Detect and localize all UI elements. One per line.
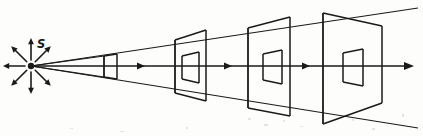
aperture-3-inner-top-edge <box>263 50 282 54</box>
axis-arrowhead-3 <box>302 62 310 69</box>
source-label: S <box>37 37 45 51</box>
source-fan-line-1 <box>31 56 104 66</box>
aperture-4 <box>323 13 382 124</box>
aperture-2-top-edge <box>175 30 206 40</box>
aperture-3-inner-bottom-edge <box>263 80 282 84</box>
aperture-3-bottom-edge <box>248 108 290 116</box>
aperture-3-top-edge <box>248 17 290 28</box>
axis-arrowhead-2 <box>224 62 232 69</box>
aperture-4-inner-bottom-edge <box>343 82 363 86</box>
source-ray-135 <box>15 50 27 62</box>
inverse-square-law-diagram: S <box>0 0 423 136</box>
aperture-2-inner-top-edge <box>182 52 199 56</box>
source-ray-arrowhead-270 <box>28 88 34 94</box>
axis-arrowhead-1 <box>137 62 145 69</box>
aperture-1-bottom-edge <box>104 77 117 79</box>
central-axis-ray <box>31 62 414 70</box>
source-ray-225 <box>15 70 27 82</box>
figure-container: S <box>0 0 423 136</box>
cone-upper-edge <box>31 8 418 66</box>
aperture-2-inner-bottom-edge <box>182 79 199 83</box>
source-ray-45 <box>35 50 47 62</box>
source-ray-arrowhead-90 <box>28 38 34 44</box>
scan-noise <box>70 114 404 132</box>
source-fan-line-2 <box>31 66 104 77</box>
source-point-dot <box>28 63 34 69</box>
aperture-2-bottom-edge <box>175 93 206 101</box>
source-ray-315 <box>35 70 47 82</box>
aperture-4-inner-top-edge <box>343 49 363 53</box>
source-ray-arrowhead-180 <box>3 63 9 69</box>
axis-arrowhead-4 <box>404 62 414 70</box>
